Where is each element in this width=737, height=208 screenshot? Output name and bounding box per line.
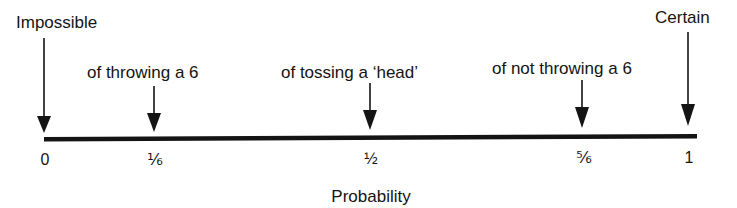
- label-tossing-a-head: of tossing a ‘head’: [281, 64, 418, 81]
- tick-value-0: 0: [41, 152, 50, 168]
- tick-value-one-sixth: ⅙: [147, 152, 163, 168]
- arrow-certain: [681, 32, 695, 126]
- probability-scale-graphic: [0, 0, 737, 208]
- arrow-five-sixths: [575, 80, 589, 128]
- tick-value-five-sixths: ⅚: [576, 150, 592, 166]
- label-impossible: Impossible: [16, 14, 97, 31]
- arrow-impossible: [37, 38, 51, 133]
- tick-value-one-half: ½: [364, 151, 377, 167]
- label-not-throwing-a-six: of not throwing a 6: [492, 60, 632, 77]
- label-certain: Certain: [655, 9, 710, 26]
- tick-value-1: 1: [685, 150, 694, 166]
- label-throwing-a-six: of throwing a 6: [87, 64, 199, 81]
- axis-label-probability: Probability: [331, 188, 410, 205]
- probability-axis-line: [44, 134, 697, 142]
- arrow-one-sixth: [147, 86, 161, 132]
- arrow-one-half: [363, 83, 377, 130]
